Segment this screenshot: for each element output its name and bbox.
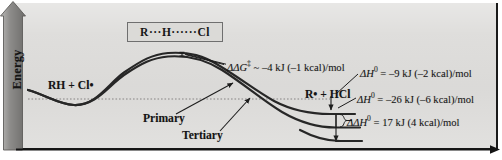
delta-h-primary-value: = –9 kJ (–2 kcal)/mol <box>378 68 472 79</box>
primary-curve-label: Primary <box>143 113 185 125</box>
delta-delta-g-leader-line <box>185 55 224 65</box>
delta-delta-h-symbol: ΔΔH <box>347 117 367 128</box>
delta-h-tertiary-value: = –26 kJ (–6 kcal)/mol <box>375 94 474 105</box>
delta-delta-g-value: ~ –4 kJ (–1 kcal)/mol <box>251 62 345 73</box>
transition-state-formula: R···H······Cl <box>140 26 210 38</box>
delta-h-tertiary-annotation: ΔH0 = –26 kJ (–6 kcal)/mol <box>357 92 474 105</box>
tertiary-leader-line <box>220 98 250 131</box>
y-axis-label: Energy <box>10 38 25 102</box>
transition-state-box: R···H······Cl <box>127 22 223 42</box>
delta-delta-h-value: = 17 kJ (4 kcal)/mol <box>371 117 460 128</box>
delta-delta-h-annotation: ΔΔH0 = 17 kJ (4 kcal)/mol <box>347 115 460 128</box>
delta-h-tertiary-symbol: ΔH <box>357 94 371 105</box>
delta-delta-h-brace <box>340 115 347 128</box>
reactants-label: RH + Cl• <box>48 80 93 92</box>
delta-h-primary-annotation: ΔH0 = –9 kJ (–2 kcal)/mol <box>360 66 472 79</box>
delta-delta-g-symbol: ΔΔG <box>227 62 247 73</box>
energy-diagram-figure: Energy R···H······Cl RH + Cl• R• + HCl P… <box>0 0 502 160</box>
delta-delta-g-annotation: ΔΔG‡ ~ –4 kJ (–1 kcal)/mol <box>227 60 345 73</box>
products-label: R• + HCl <box>305 89 350 101</box>
right-arrow-icon <box>16 145 500 154</box>
delta-h-primary-symbol: ΔH <box>360 68 374 79</box>
primary-leader-line <box>176 83 233 114</box>
tertiary-product-approach <box>300 130 340 141</box>
tertiary-curve-label: Tertiary <box>182 130 223 142</box>
